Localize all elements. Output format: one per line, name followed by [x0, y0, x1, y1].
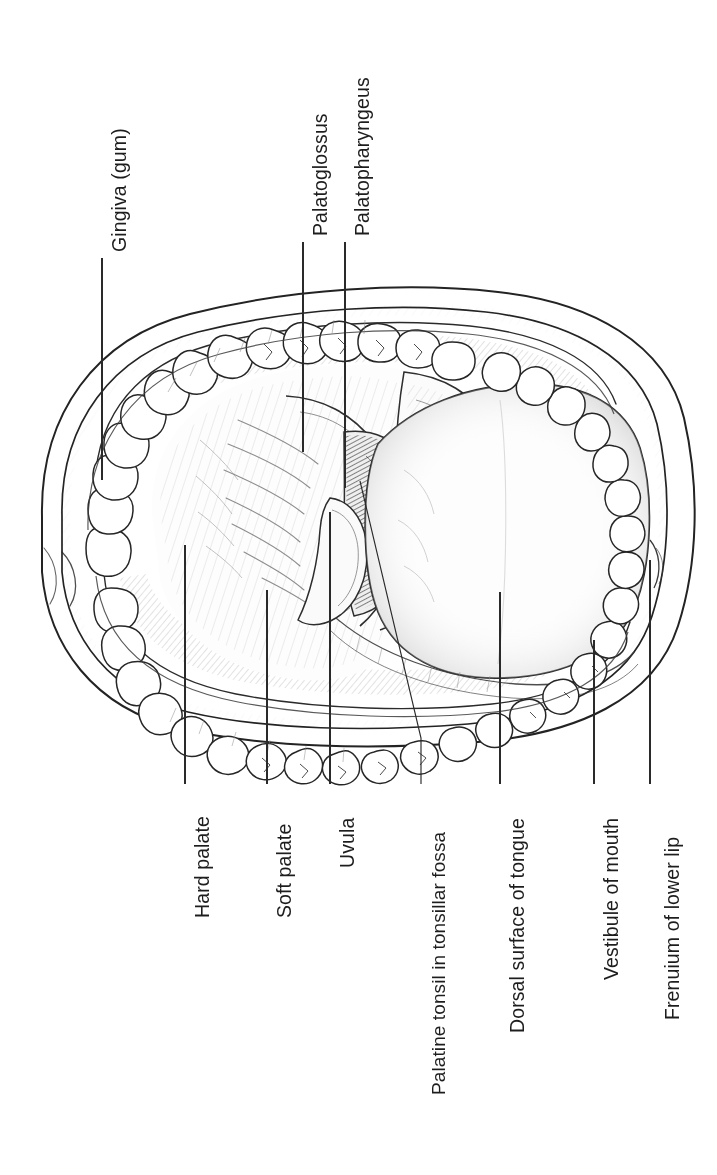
label-gingiva: Gingiva (gum)	[110, 128, 130, 252]
label-palatopharyngeus: Palatopharyngeus	[353, 77, 373, 236]
leader-palatine-tonsil	[360, 481, 421, 784]
hard-palate	[152, 365, 416, 681]
upper-teeth	[86, 321, 475, 576]
soft-palate	[395, 372, 495, 566]
palatine-tonsil	[343, 431, 420, 616]
label-palatine-tonsil: Palatine tonsil in tonsillar fossa	[429, 832, 448, 1095]
right-dental-arch	[482, 353, 645, 733]
gingiva-band	[96, 323, 630, 709]
label-uvula: Uvula	[338, 818, 358, 868]
uvula	[298, 498, 367, 625]
label-hard-palate: Hard palate	[193, 816, 213, 918]
floor-of-mouth	[330, 618, 638, 699]
vestibule-of-mouth	[88, 331, 628, 717]
label-frenulum-lower-lip: Frenuium of lower lip	[663, 837, 683, 1020]
label-vestibule-of-mouth: Vestibule of mouth	[602, 818, 622, 980]
label-palatoglossus: Palatoglossus	[311, 113, 331, 236]
lips-outline	[42, 287, 695, 746]
anatomy-plate: Gingiva (gum) Palatoglossus Palatopharyn…	[0, 0, 717, 1175]
tongue	[365, 384, 649, 678]
label-dorsal-surface-of-tongue: Dorsal surface of tongue	[508, 818, 528, 1033]
lower-teeth	[94, 588, 513, 791]
palatopharyngeal-arch	[380, 430, 442, 630]
frenulum-lower-lip	[650, 540, 663, 588]
palatoglossal-arch	[286, 396, 398, 626]
label-soft-palate: Soft palate	[275, 824, 295, 918]
